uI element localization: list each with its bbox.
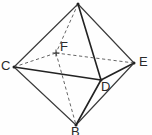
- edge-a-c: [14, 4, 78, 67]
- figure-canvas: [0, 0, 152, 135]
- geometric-figure: CEFDB: [0, 0, 152, 135]
- vertex-marker-f: [53, 50, 60, 57]
- edge-c-b: [14, 67, 76, 125]
- vertex-label-d: D: [101, 80, 110, 93]
- edge-f-b: [56, 53, 76, 125]
- vertex-label-e: E: [139, 55, 148, 68]
- vertex-marker-a: [77, 3, 80, 6]
- edge-e-b: [76, 63, 134, 125]
- edge-c-d: [14, 67, 101, 80]
- vertex-marker-c: [13, 66, 16, 69]
- vertex-label-f: F: [60, 40, 68, 53]
- vertex-label-b: B: [71, 125, 80, 135]
- vertex-label-c: C: [1, 59, 10, 72]
- vertex-marker-e: [133, 62, 136, 65]
- edge-d-e: [101, 63, 134, 80]
- vertices-layer: [13, 3, 136, 127]
- edges-layer: [14, 4, 134, 125]
